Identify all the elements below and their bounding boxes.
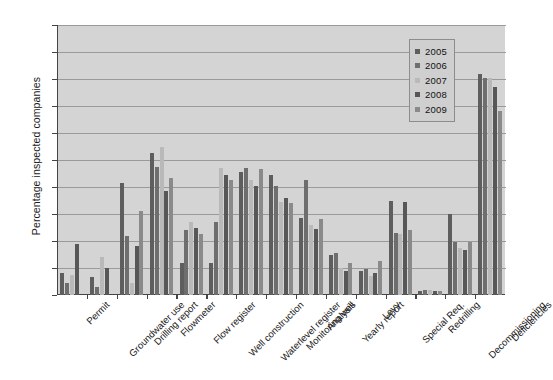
legend-item: 2006 xyxy=(415,59,447,74)
gridline xyxy=(58,133,506,134)
legend: 20052006200720082009 xyxy=(409,39,455,122)
gridline xyxy=(58,268,506,269)
legend-swatch-icon xyxy=(415,92,420,97)
legend-item: 2008 xyxy=(415,88,447,103)
legend-item: 2005 xyxy=(415,44,447,59)
gridline xyxy=(58,241,506,242)
legend-label: 2006 xyxy=(425,60,447,71)
x-axis-label: Permit xyxy=(84,299,111,326)
legend-label: 2009 xyxy=(425,104,447,115)
y-axis-title: Percentage inspected companies xyxy=(30,29,42,284)
legend-swatch-icon xyxy=(415,49,420,54)
gridline xyxy=(58,187,506,188)
x-axis-labels: PermitGroundwater useDrilling reportFlow… xyxy=(57,299,505,379)
legend-swatch-icon xyxy=(415,63,420,68)
x-axis-label: Deficiencies xyxy=(509,299,553,343)
x-axis-label: Groundwater use xyxy=(127,299,187,359)
legend-label: 2007 xyxy=(425,75,447,86)
gridline xyxy=(58,25,506,26)
legend-swatch-icon xyxy=(415,78,420,83)
legend-item: 2007 xyxy=(415,73,447,88)
gridline xyxy=(58,160,506,161)
legend-swatch-icon xyxy=(415,107,420,112)
gridline xyxy=(58,214,506,215)
legend-item: 2009 xyxy=(415,102,447,117)
legend-label: 2008 xyxy=(425,89,447,100)
legend-label: 2005 xyxy=(425,46,447,57)
